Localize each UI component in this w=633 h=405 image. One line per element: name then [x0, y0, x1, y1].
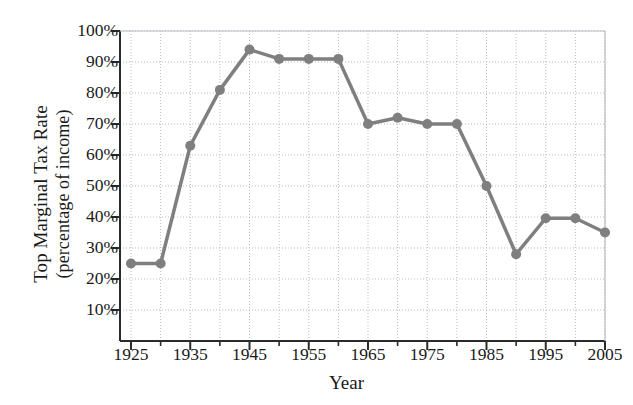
x-axis-tick-labels: 192519351945195519651975198519952005 — [0, 0, 633, 405]
x-axis-title: Year — [0, 372, 633, 394]
x-axis-tick-label: 1935 — [160, 346, 220, 364]
x-axis-tick-label: 1995 — [516, 346, 576, 364]
x-axis-tick-label: 1945 — [220, 346, 280, 364]
x-axis-tick-label: 1925 — [101, 346, 161, 364]
x-axis-tick-label: 1965 — [338, 346, 398, 364]
x-axis-tick-label: 1975 — [397, 346, 457, 364]
x-axis-title-label: Year — [269, 372, 364, 393]
x-axis-tick-label: 2005 — [575, 346, 633, 364]
x-axis-tick-label: 1985 — [457, 346, 517, 364]
x-axis-tick-label: 1955 — [279, 346, 339, 364]
chart-container: Top Marginal Tax Rate (percentage of inc… — [0, 0, 633, 405]
